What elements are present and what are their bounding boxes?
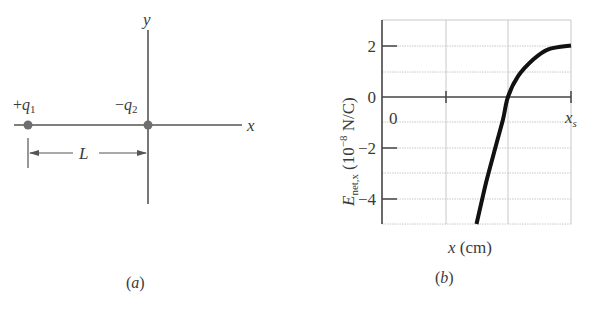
panel-a: x y +q1 −q2 L (a) <box>13 10 255 292</box>
separation-dimension: L <box>28 138 147 168</box>
panel-b-caption: (b) <box>435 269 454 287</box>
panel-b-y-label: Enet,x(10−8 N/C) <box>337 97 360 207</box>
panel-a-caption: (a) <box>126 274 145 292</box>
x-tick-label-zero: 0 <box>389 109 398 128</box>
panel-a-y-label: y <box>141 10 151 29</box>
y-tick-labels: 2 0 −2 −4 <box>358 37 377 209</box>
charge-q1-label: +q1 <box>13 96 36 115</box>
svg-text:2: 2 <box>368 37 377 56</box>
arrow-left-icon <box>29 150 39 156</box>
svg-text:−2: −2 <box>358 139 376 158</box>
panel-b-x-label: x (cm) <box>447 238 492 257</box>
charge-q2-label: −q2 <box>115 96 138 115</box>
svg-text:−4: −4 <box>358 190 377 209</box>
figure: x y +q1 −q2 L (a) <box>0 0 599 311</box>
panel-a-x-label: x <box>246 116 255 135</box>
separation-label: L <box>78 144 88 163</box>
charge-q1-dot <box>24 121 33 130</box>
svg-text:0: 0 <box>368 88 377 107</box>
panel-b: 2 0 −2 −4 0 xs Enet,x(10−8 N/C) x (cm) (… <box>337 20 577 287</box>
arrow-right-icon <box>137 150 147 156</box>
charge-q2-dot <box>144 121 153 130</box>
x-tick-label-xs: xs <box>564 108 577 129</box>
